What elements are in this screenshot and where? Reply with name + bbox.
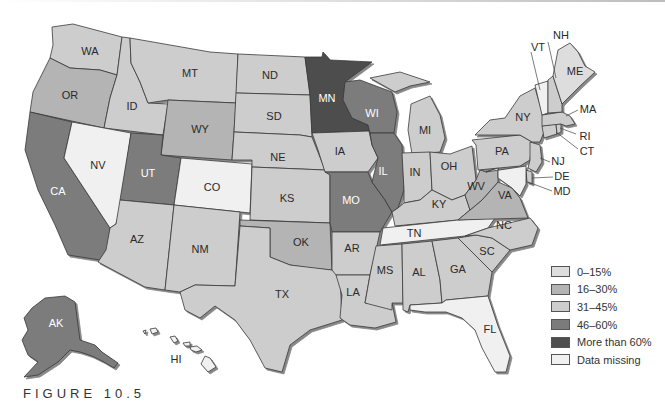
state-DE[interactable] xyxy=(526,170,532,184)
label-CO: CO xyxy=(204,181,221,193)
label-MD: MD xyxy=(553,185,570,197)
label-MO: MO xyxy=(342,194,360,206)
label-ND: ND xyxy=(262,69,278,81)
label-OR: OR xyxy=(62,89,79,101)
label-LA: LA xyxy=(346,286,360,298)
label-MA: MA xyxy=(580,103,597,115)
label-IA: IA xyxy=(335,145,346,157)
legend-item-31-45: 31–45% xyxy=(551,298,652,316)
label-ME: ME xyxy=(567,65,584,77)
state-HI[interactable] xyxy=(143,328,216,372)
label-ID: ID xyxy=(127,100,138,112)
label-VA: VA xyxy=(498,189,513,201)
legend-swatch xyxy=(551,301,570,312)
label-MI: MI xyxy=(419,124,431,136)
label-NV: NV xyxy=(90,159,106,171)
label-NM: NM xyxy=(191,243,208,255)
state-NY[interactable] xyxy=(475,88,544,142)
label-WA: WA xyxy=(81,45,99,57)
label-WV: WV xyxy=(467,180,485,192)
label-SD: SD xyxy=(266,110,281,122)
label-CA: CA xyxy=(50,185,66,197)
legend-label: 0–15% xyxy=(577,266,611,278)
label-IN: IN xyxy=(410,166,421,178)
legend-item-0-15: 0–15% xyxy=(551,263,652,281)
label-CT: CT xyxy=(580,145,595,157)
label-AK: AK xyxy=(49,317,64,329)
label-AR: AR xyxy=(344,242,359,254)
label-AL: AL xyxy=(412,266,425,278)
label-NJ: NJ xyxy=(551,155,564,167)
figure-caption: FIGURE 10.5 xyxy=(23,386,145,401)
legend-swatch xyxy=(551,354,570,365)
label-NH: NH xyxy=(553,29,569,41)
label-KY: KY xyxy=(432,198,447,210)
map-legend: 0–15% 16–30% 31–45% 46–60% More than 60%… xyxy=(551,263,652,369)
legend-swatch xyxy=(551,337,570,348)
label-UT: UT xyxy=(141,167,156,179)
legend-swatch xyxy=(551,319,570,330)
label-IL: IL xyxy=(378,165,387,177)
legend-label: More than 60% xyxy=(577,336,652,348)
label-TN: TN xyxy=(407,227,422,239)
legend-item-more-than-60: More than 60% xyxy=(551,333,652,351)
legend-swatch xyxy=(551,266,570,277)
label-MT: MT xyxy=(182,67,198,79)
label-RI: RI xyxy=(580,130,591,142)
label-GA: GA xyxy=(450,263,467,275)
label-WI: WI xyxy=(365,107,378,119)
label-NE: NE xyxy=(270,151,285,163)
legend-item-data-missing: Data missing xyxy=(551,351,652,369)
label-AZ: AZ xyxy=(130,233,144,245)
legend-label: 46–60% xyxy=(577,319,617,331)
label-TX: TX xyxy=(275,288,290,300)
label-KS: KS xyxy=(280,192,295,204)
label-VT: VT xyxy=(531,41,545,53)
label-NC: NC xyxy=(496,219,512,231)
state-AK[interactable] xyxy=(22,296,118,377)
label-SC: SC xyxy=(479,245,494,257)
label-FL: FL xyxy=(484,323,497,335)
label-OK: OK xyxy=(293,236,310,248)
label-NY: NY xyxy=(515,111,531,123)
legend-item-46-60: 46–60% xyxy=(551,316,652,334)
legend-label: Data missing xyxy=(577,354,641,366)
label-MS: MS xyxy=(377,264,394,276)
state-NJ[interactable] xyxy=(528,142,542,172)
label-DE: DE xyxy=(554,170,569,182)
legend-label: 31–45% xyxy=(577,301,617,313)
legend-swatch xyxy=(551,284,570,295)
label-PA: PA xyxy=(495,145,510,157)
label-MN: MN xyxy=(318,92,335,104)
label-OH: OH xyxy=(441,160,458,172)
label-WY: WY xyxy=(191,123,209,135)
label-HI: HI xyxy=(171,353,182,365)
legend-label: 16–30% xyxy=(577,283,617,295)
legend-item-16-30: 16–30% xyxy=(551,281,652,299)
